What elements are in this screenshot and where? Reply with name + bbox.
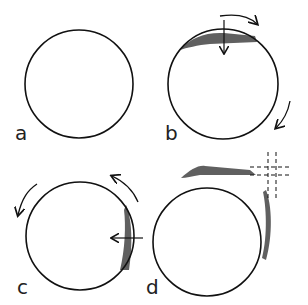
circle-d xyxy=(153,188,261,296)
panel-a xyxy=(25,30,133,138)
panel-d xyxy=(153,152,292,296)
shaded-band-top xyxy=(180,33,257,50)
circle-a xyxy=(25,30,133,138)
panel-b xyxy=(168,15,290,139)
label-d: d xyxy=(146,275,159,299)
dashed-crosshair-icon xyxy=(250,152,292,200)
shaded-band-top-d xyxy=(181,166,256,178)
panel-c xyxy=(18,176,143,290)
clockwise-arrow-right-icon xyxy=(276,101,290,128)
circle-b xyxy=(168,29,278,139)
label-c: c xyxy=(17,275,28,299)
counterclockwise-arrow-top-icon xyxy=(112,176,138,202)
shaded-band-right-d xyxy=(262,190,271,260)
circle-c xyxy=(26,182,134,290)
counterclockwise-arrow-left-icon xyxy=(18,184,37,215)
label-b: b xyxy=(165,121,178,145)
clockwise-arrow-top-icon xyxy=(220,15,257,24)
diagram xyxy=(0,0,308,305)
label-a: a xyxy=(15,121,27,145)
